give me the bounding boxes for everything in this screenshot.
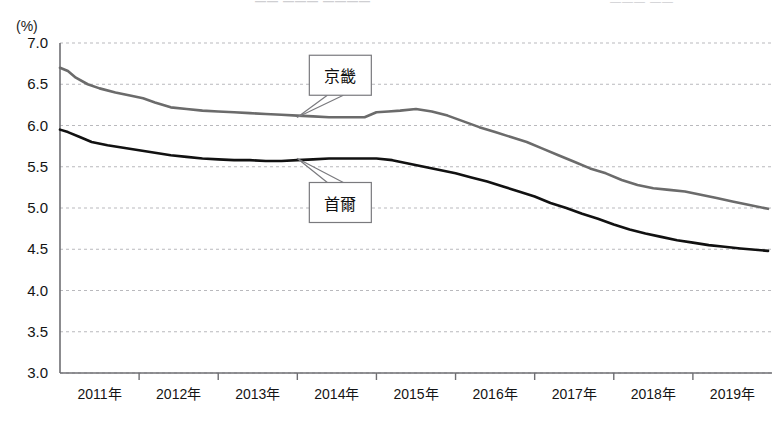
callout-pointer-seoul	[297, 159, 343, 183]
x-axis-tick-marks-group	[139, 373, 693, 380]
callout-pointer-gyeonggi	[297, 95, 343, 117]
cropped-header-right: ——— ——	[610, 0, 674, 7]
line-chart-figure: —— ——— ———— ——— —— (%) 7.06.56.05.55.04.…	[0, 0, 781, 434]
grid-lines-group	[60, 43, 772, 373]
x-axis-tick-label: 2017年	[552, 386, 597, 402]
x-axis-tick-labels-group: 2011年2012年2013年2014年2015年2016年2017年2018年…	[78, 386, 756, 402]
cropped-header-center: —— ——— ————	[255, 0, 371, 7]
series-line-gyeonggi	[60, 68, 768, 209]
y-axis-tick-label: 7.0	[27, 34, 48, 51]
series-callouts-group: 京畿首爾	[297, 55, 371, 222]
callout-label-gyeonggi: 京畿	[324, 67, 356, 86]
x-axis-tick-label: 2011年	[78, 386, 122, 402]
y-axis-tick-label: 4.5	[27, 240, 48, 257]
x-axis-tick-label: 2015年	[393, 386, 438, 402]
x-axis-tick-label: 2016年	[473, 386, 518, 402]
y-axis-tick-label: 5.0	[27, 199, 48, 216]
chart-svg: 7.06.56.05.55.04.54.03.53.0 2011年2012年20…	[0, 0, 781, 434]
cropped-header-strip: —— ——— ———— ——— ——	[0, 0, 781, 12]
data-series-group	[60, 68, 768, 251]
x-axis-tick-label: 2018年	[631, 386, 676, 402]
callout-label-seoul: 首爾	[324, 195, 356, 214]
y-axis-tick-label: 5.5	[27, 158, 48, 175]
x-axis-tick-label: 2013年	[235, 386, 280, 402]
y-axis-tick-label: 4.0	[27, 282, 48, 299]
y-axis-tick-label: 3.0	[27, 364, 48, 381]
y-axis-tick-label: 6.0	[27, 117, 48, 134]
y-axis-tick-label: 6.5	[27, 75, 48, 92]
y-axis-tick-labels-group: 7.06.56.05.55.04.54.03.53.0	[27, 34, 48, 381]
y-axis-tick-label: 3.5	[27, 323, 48, 340]
x-axis-tick-label: 2019年	[710, 386, 755, 402]
x-axis-tick-label: 2014年	[314, 386, 359, 402]
x-axis-tick-label: 2012年	[156, 386, 201, 402]
y-axis-unit-label: (%)	[16, 18, 38, 34]
